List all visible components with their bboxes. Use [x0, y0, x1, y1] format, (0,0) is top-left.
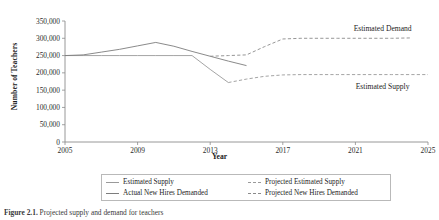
chart-legend: Estimated SupplyProjected Estimated Supp… — [101, 174, 391, 201]
y-tick-label: 200,000 — [36, 68, 60, 77]
legend-item[interactable]: Estimated Supply — [106, 177, 244, 187]
legend-item-label: Projected New Hires Demanded — [265, 188, 358, 198]
series-line-actual-new-hires-demanded — [65, 42, 247, 65]
legend-item[interactable]: Projected Estimated Supply — [248, 177, 386, 187]
legend-item-label: Actual New Hires Demanded — [123, 188, 208, 198]
legend-swatch-icon — [248, 182, 261, 183]
series-line-estimated-supply — [65, 56, 228, 83]
line-chart-svg: 050,000100,000150,000200,000250,000300,0… — [0, 0, 439, 165]
y-tick-label: 250,000 — [36, 51, 60, 60]
legend-swatch-icon — [106, 193, 119, 194]
legend-item-label: Projected Estimated Supply — [265, 177, 345, 187]
x-axis-title: Year — [0, 152, 439, 161]
y-tick-label: 50,000 — [40, 120, 61, 129]
annotation-estimated-supply: Estimated Supply — [356, 82, 410, 91]
y-axis-title: Number of Teachers — [10, 22, 19, 132]
legend-item[interactable]: Actual New Hires Demanded — [106, 188, 244, 198]
y-tick-label: 350,000 — [36, 17, 60, 26]
legend-item-label: Estimated Supply — [123, 177, 174, 187]
y-tick-label: 100,000 — [36, 103, 60, 112]
figure-caption-label: Figure 2.1. — [4, 208, 38, 217]
legend-swatch-icon — [248, 193, 261, 194]
legend-grid: Estimated SupplyProjected Estimated Supp… — [106, 177, 386, 198]
y-tick-label: 300,000 — [36, 34, 60, 43]
figure-caption-text: Projected supply and demand for teachers — [38, 208, 164, 217]
legend-item[interactable]: Projected New Hires Demanded — [248, 188, 386, 198]
y-tick-label: 150,000 — [36, 86, 60, 95]
series-line-projected-estimated-supply — [228, 75, 428, 83]
chart-area: 050,000100,000150,000200,000250,000300,0… — [0, 0, 439, 165]
y-axis-ticks: 050,000100,000150,000200,000250,000300,0… — [36, 17, 65, 147]
data-series-group — [65, 38, 428, 83]
series-line-projected-new-hires-demanded — [210, 38, 410, 56]
legend-swatch-icon — [106, 182, 119, 183]
figure-caption: Figure 2.1. Projected supply and demand … — [4, 208, 434, 217]
figure-container: 050,000100,000150,000200,000250,000300,0… — [0, 0, 439, 220]
annotation-estimated-demand: Estimated Demand — [354, 24, 412, 33]
